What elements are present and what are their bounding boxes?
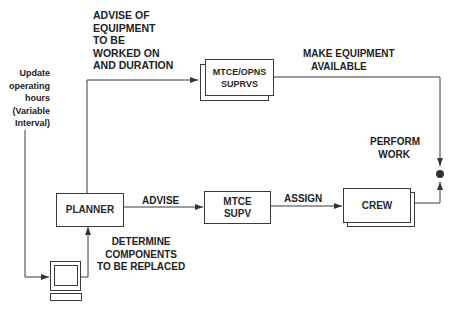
perform-work-label: PERFORM WORK xyxy=(370,136,420,161)
mtce-opns-suprvs-node: MTCE/OPNS SUPRVS xyxy=(205,59,274,96)
planner-node: PLANNER xyxy=(56,193,124,227)
advise-equipment-label: ADVISE OF EQUIPMENT TO BE WORKED ON AND … xyxy=(93,9,173,72)
make-equipment-available-label: MAKE EQUIPMENT AVAILABLE xyxy=(303,48,395,73)
mtce-supv-node: MTCE SUPV xyxy=(204,191,271,224)
determine-components-label: DETERMINE COMPONENTS TO BE REPLACED xyxy=(97,236,185,274)
crew-node: CREW xyxy=(343,188,411,223)
perform-work-node xyxy=(436,170,444,178)
advise-label: ADVISE xyxy=(142,195,179,208)
computer-terminal-icon xyxy=(51,262,82,301)
update-hours-label: Update operating hours (Variable Interva… xyxy=(6,67,50,130)
assign-label: ASSIGN xyxy=(284,193,322,206)
